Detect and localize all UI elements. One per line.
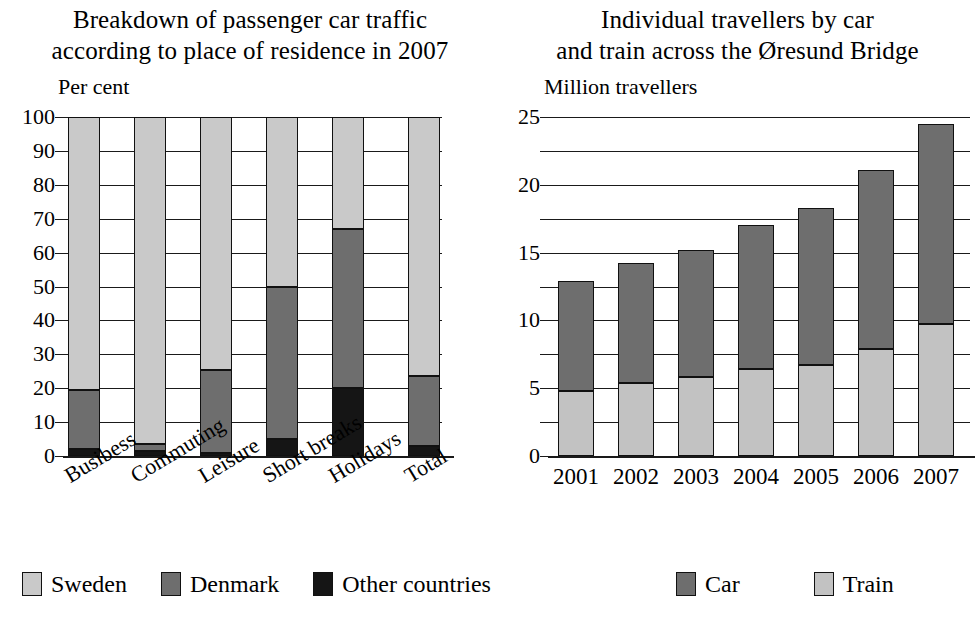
legend-item-denmark[interactable]: Denmark	[161, 572, 279, 596]
y-axis-tick-minor	[540, 354, 548, 355]
bar-2007[interactable]	[918, 117, 954, 456]
x-axis-label-2003: 2003	[666, 465, 726, 488]
bar-segment-sweden	[134, 117, 166, 444]
bar-segment-sweden	[200, 117, 232, 370]
y-axis-tick-label: 50	[5, 276, 55, 298]
x-axis-label-2002: 2002	[606, 465, 666, 488]
right-chart-panel: Individual travellers by car and train a…	[500, 0, 975, 619]
y-axis-tick-minor	[540, 219, 548, 220]
right-chart-title-line-2: and train across the Øresund Bridge	[500, 35, 975, 66]
y-axis-tick-label: 20	[5, 377, 55, 399]
y-axis-tick-label: 40	[5, 309, 55, 331]
right-chart-title-line-1: Individual travellers by car	[500, 4, 975, 35]
y-axis-tick	[540, 117, 548, 118]
legend-label-sweden: Sweden	[51, 572, 127, 596]
bar-2006[interactable]	[858, 117, 894, 456]
y-axis-tick-label: 15	[490, 242, 540, 264]
bar-segment-train	[918, 324, 954, 456]
legend-swatch-train-icon	[814, 572, 834, 596]
y-axis-tick-minor	[540, 422, 548, 423]
gridline	[63, 422, 442, 423]
y-axis-tick	[55, 219, 63, 220]
y-axis-tick	[55, 456, 63, 457]
bar-commuting[interactable]	[134, 117, 166, 456]
y-axis-tick	[55, 320, 63, 321]
bar-segment-sweden	[266, 117, 298, 287]
bar-holidays[interactable]	[332, 117, 364, 456]
bar-2005[interactable]	[798, 117, 834, 456]
bar-segment-car	[678, 250, 714, 377]
legend-label-car: Car	[705, 572, 740, 596]
bar-segment-train	[858, 349, 894, 456]
y-axis-tick	[540, 456, 548, 457]
legend-label-other-countries: Other countries	[342, 572, 491, 596]
y-axis-tick-label: 70	[5, 208, 55, 230]
y-axis-tick-label: 60	[5, 242, 55, 264]
bar-segment-denmark	[408, 376, 440, 445]
figure-page: Breakdown of passenger car traffic accor…	[0, 0, 975, 619]
y-axis-tick	[55, 117, 63, 118]
bar-2003[interactable]	[678, 117, 714, 456]
right-legend: Car Train	[676, 572, 894, 596]
left-chart-title-line-2: according to place of residence in 2007	[0, 35, 500, 66]
bar-leisure[interactable]	[200, 117, 232, 456]
legend-item-other-countries[interactable]: Other countries	[313, 572, 491, 596]
bar-segment-train	[558, 391, 594, 456]
y-axis-tick	[55, 422, 63, 423]
y-axis-tick-label: 5	[490, 377, 540, 399]
y-axis-tick	[540, 185, 548, 186]
legend-item-sweden[interactable]: Sweden	[22, 572, 127, 596]
legend-swatch-sweden-icon	[22, 572, 42, 596]
x-axis-label-2007: 2007	[906, 465, 966, 488]
y-axis-tick-label: 20	[490, 174, 540, 196]
gridline	[63, 320, 442, 321]
bar-segment-car	[858, 170, 894, 349]
y-axis-tick-label: 90	[5, 140, 55, 162]
left-legend: Sweden Denmark Other countries	[22, 572, 491, 596]
x-axis-label-2004: 2004	[726, 465, 786, 488]
y-axis-tick	[55, 388, 63, 389]
left-plot-area	[63, 117, 442, 456]
bar-segment-denmark	[68, 390, 100, 449]
bar-segment-train	[678, 377, 714, 456]
y-axis-tick	[55, 151, 63, 152]
bar-total[interactable]	[408, 117, 440, 456]
bar-segment-car	[558, 281, 594, 391]
legend-swatch-other-countries-icon	[313, 572, 333, 596]
bar-short-breaks[interactable]	[266, 117, 298, 456]
bar-segment-denmark	[332, 229, 364, 388]
legend-item-train[interactable]: Train	[814, 572, 894, 596]
bar-2004[interactable]	[738, 117, 774, 456]
y-axis-tick	[55, 253, 63, 254]
bar-segment-train	[798, 365, 834, 456]
legend-swatch-denmark-icon	[161, 572, 181, 596]
y-axis-tick-label: 80	[5, 174, 55, 196]
left-y-axis-unit-label: Per cent	[58, 76, 129, 98]
y-axis-tick-label: 100	[5, 106, 55, 128]
y-axis-tick-minor	[540, 287, 548, 288]
legend-label-denmark: Denmark	[190, 572, 279, 596]
bar-segment-denmark	[266, 287, 298, 440]
gridline	[63, 185, 442, 186]
y-axis-tick-label: 0	[5, 445, 55, 467]
bar-segment-car	[618, 263, 654, 382]
bar-segment-car	[798, 208, 834, 365]
y-axis-tick	[55, 185, 63, 186]
y-axis-tick	[540, 388, 548, 389]
bar-busibess[interactable]	[68, 117, 100, 456]
y-axis-tick-label: 0	[490, 445, 540, 467]
gridline	[63, 151, 442, 152]
y-axis-tick-label: 25	[490, 106, 540, 128]
x-axis-baseline	[548, 456, 975, 458]
bar-2001[interactable]	[558, 117, 594, 456]
y-axis-tick-label: 10	[490, 309, 540, 331]
gridline	[63, 117, 442, 118]
left-chart-title-line-1: Breakdown of passenger car traffic	[0, 4, 500, 35]
legend-item-car[interactable]: Car	[676, 572, 740, 596]
bar-segment-train	[618, 383, 654, 456]
x-axis-label-2006: 2006	[846, 465, 906, 488]
bar-segment-car	[918, 124, 954, 325]
bar-2002[interactable]	[618, 117, 654, 456]
gridline	[63, 219, 442, 220]
bar-segment-sweden	[408, 117, 440, 376]
